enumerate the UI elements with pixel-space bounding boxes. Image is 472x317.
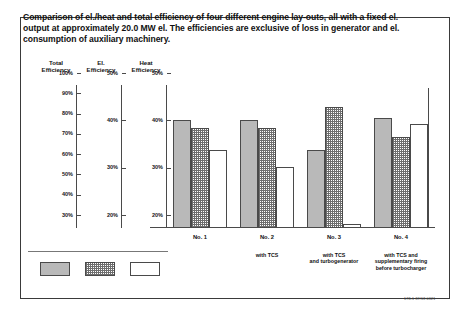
bar [191,128,209,228]
axis-line-el [121,85,122,228]
axis-tick [77,134,81,135]
document-reference: 178-1 87/18 0321 [404,297,435,301]
axis-tick-label: 100% [47,71,73,77]
bar [343,224,361,228]
bar-group [240,88,294,228]
x-axis-group-label: No. 4 [356,234,446,241]
bar-group [173,88,227,228]
axis-tick [77,174,81,175]
axis-line-total [76,85,77,228]
axis-tick [77,154,81,155]
bar [325,107,343,228]
bar [410,124,428,228]
bar [173,120,191,228]
x-axis-group-subtitle-line: before turbocharger [356,265,446,271]
bar-group [307,88,361,228]
axis-tick-label: 50% [92,71,118,77]
axis-tick [167,73,171,74]
axis-tick-label: 80% [47,111,73,117]
axis-tick [77,93,81,94]
axis-tick-label: 40% [47,192,73,198]
bar [374,118,392,228]
bar [276,167,294,228]
bar-group [374,88,428,228]
axis-header-heat-line1: Heat [123,59,169,66]
axis-tick [122,168,126,169]
bar [392,137,410,228]
axis-tick-label: 20% [92,213,118,219]
bar [209,150,227,228]
chart-plot-area [155,88,430,228]
bar [240,120,258,228]
axis-header-total-line1: Total [33,59,79,66]
axis-tick-label: 90% [47,91,73,97]
legend-swatch [85,262,115,276]
axis-tick [77,114,81,115]
axis-tick-label: 40% [92,118,118,124]
axis-tick [122,215,126,216]
bar [258,128,276,228]
legend-swatch [130,262,160,276]
axis-tick [122,120,126,121]
legend-divider [28,251,168,252]
legend-swatch [40,262,70,276]
axis-tick [77,215,81,216]
axis-tick-label: 50% [137,71,163,77]
axis-tick-label: 70% [47,131,73,137]
axis-tick [77,73,81,74]
axis-tick-label: 60% [47,152,73,158]
axis-tick-label: 30% [47,213,73,219]
axis-tick-label: 30% [92,165,118,171]
axis-tick [77,195,81,196]
axis-header-el-line1: El. [78,59,124,66]
bar [307,150,325,228]
axis-tick [122,73,126,74]
chart-caption: Comparison of el./heat and total efficie… [23,12,413,46]
axis-tick-label: 50% [47,172,73,178]
x-axis-group-subtitle: with TCS andsupplementary firingbefore t… [356,252,446,271]
